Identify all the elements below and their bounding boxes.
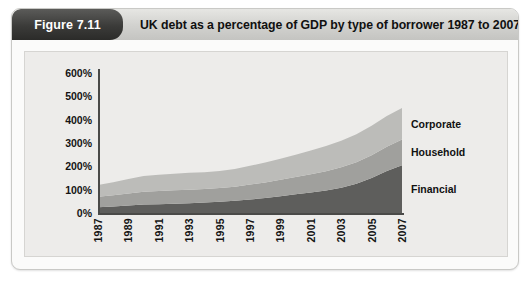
series-label-financial: Financial	[411, 183, 457, 195]
x-axis-tick-label: 2003	[335, 218, 347, 243]
y-axis-tick-label: 200%	[46, 160, 92, 172]
figure-card: Figure 7.11 UK debt as a percentage of G…	[11, 8, 519, 270]
y-axis-line	[98, 69, 100, 214]
x-axis-tick-label: 1995	[214, 218, 226, 243]
y-axis-tick-label: 600%	[46, 67, 92, 79]
x-axis-tick-label: 1999	[274, 218, 286, 243]
figure-caption: UK debt as a percentage of GDP by type o…	[123, 9, 519, 40]
x-axis-tick-label: 2007	[396, 218, 408, 243]
x-axis-tick-label: 2005	[366, 218, 378, 243]
y-axis-tick-label: 300%	[46, 137, 92, 149]
series-label-household: Household	[411, 146, 465, 158]
x-axis-tick-label: 1987	[92, 218, 104, 243]
x-axis-tick-label: 1997	[244, 218, 256, 243]
chart-plot-panel: 600%500%400%300%200%100%0%19871989199119…	[24, 51, 508, 257]
chart-plot-area: 600%500%400%300%200%100%0%19871989199119…	[25, 52, 507, 256]
x-axis-line	[98, 213, 404, 215]
x-axis-tick-label: 1991	[153, 218, 165, 243]
figure-number-tab: Figure 7.11	[12, 9, 123, 40]
x-axis-tick-label: 2001	[305, 218, 317, 243]
figure-number-label: Figure 7.11	[34, 18, 100, 32]
y-axis-tick-label: 400%	[46, 114, 92, 126]
y-axis-tick-label: 100%	[46, 184, 92, 196]
y-axis-tick-label: 0%	[46, 207, 92, 219]
y-axis-tick-label: 500%	[46, 90, 92, 102]
x-axis-tick-label: 1989	[122, 218, 134, 243]
x-axis-tick-label: 1993	[183, 218, 195, 243]
series-label-corporate: Corporate	[411, 118, 461, 130]
figure-header: Figure 7.11 UK debt as a percentage of G…	[12, 9, 519, 40]
figure-caption-text: UK debt as a percentage of GDP by type o…	[140, 18, 519, 32]
